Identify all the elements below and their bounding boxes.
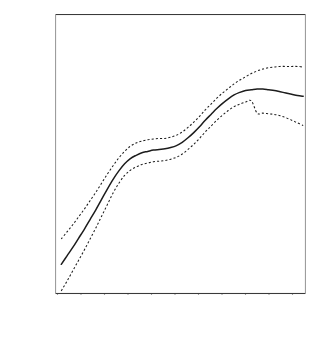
top-margin-mask [0, 0, 322, 14]
chart-figure: 200 100 0 -100 -200 Partial Effect of Ov… [0, 0, 322, 342]
right-margin-mask [306, 0, 322, 342]
bottom-margin-mask [0, 295, 322, 342]
partial-effect-plot: 200 100 0 -100 -200 Partial Effect of Ov… [0, 0, 322, 342]
left-margin-mask [0, 0, 56, 342]
